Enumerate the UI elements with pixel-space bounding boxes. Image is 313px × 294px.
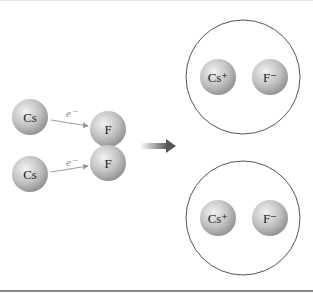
ionic-bond-diagram: Cs e⁻ F Cs e⁻ F Cs⁺ F⁻ Cs⁺ F⁻ (0, 0, 313, 294)
f-label: F (104, 122, 111, 137)
cs-cation-label: Cs⁺ (208, 211, 229, 226)
product-ion-pair-2: Cs⁺ F⁻ (186, 161, 300, 275)
electron-arrow (51, 120, 88, 126)
cs-label: Cs (23, 110, 37, 125)
reaction-arrow (140, 139, 176, 153)
f-anion-label: F⁻ (263, 211, 277, 226)
reactant-pair-1: Cs e⁻ F (12, 99, 126, 147)
f-anion-label: F⁻ (263, 70, 277, 85)
reactant-pair-2: Cs e⁻ F (12, 145, 126, 192)
electron-label: e⁻ (66, 156, 78, 168)
product-ion-pair-1: Cs⁺ F⁻ (186, 20, 300, 134)
cs-label: Cs (23, 167, 37, 182)
f-label: F (104, 156, 111, 171)
bottom-rule (0, 290, 313, 292)
electron-label: e⁻ (66, 107, 78, 119)
cs-cation-label: Cs⁺ (208, 70, 229, 85)
